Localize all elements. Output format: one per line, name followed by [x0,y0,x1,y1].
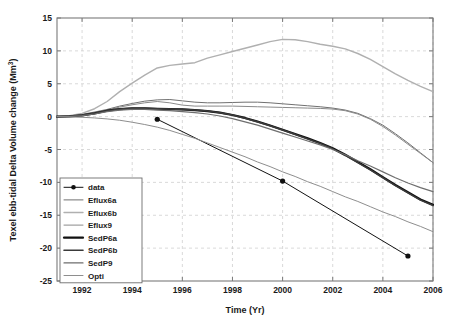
chart-legend[interactable]: dataEflux6aEflux6bEflux9SedP6aSedP6bSedP… [60,178,142,283]
y-tick-label: -20 [40,243,53,253]
y-tick-label: -15 [40,210,53,220]
legend-label-opti[interactable]: Opti [88,272,104,281]
x-tick-label: 1996 [173,285,192,295]
y-tick-label: 10 [43,46,53,56]
line-chart: 19921994199619982000200220042006-25-20-1… [0,0,449,321]
x-tick-label: 2002 [323,285,342,295]
y-tick-label: 15 [43,13,53,23]
legend-label-eflux6a[interactable]: Eflux6a [88,196,117,205]
legend-label-sedp9[interactable]: SedP9 [88,259,113,268]
data-point-marker [405,253,410,258]
data-point-marker [155,117,160,122]
x-tick-label: 1994 [123,285,142,295]
y-tick-label: -10 [40,177,53,187]
data-point-marker [280,178,285,183]
y-tick-label: -25 [40,276,53,286]
y-axis-title-main: Texel ebb-tidal Delta Volume change (Mm [8,65,18,241]
x-tick-label: 1992 [73,285,92,295]
y-tick-label: -5 [44,145,52,155]
x-tick-label: 1998 [223,285,242,295]
legend-marker [71,185,76,190]
y-tick-label: 5 [47,79,52,89]
legend-label-sedp6a[interactable]: SedP6a [88,234,117,243]
x-tick-label: 2006 [424,285,443,295]
x-axis-title: Time (Yr) [226,305,265,315]
legend-label-eflux6b[interactable]: Eflux6b [88,209,117,218]
chart-figure: 19921994199619982000200220042006-25-20-1… [0,0,449,321]
y-axis-title: Texel ebb-tidal Delta Volume change (Mm3… [7,59,18,242]
y-tick-label: 0 [47,112,52,122]
legend-label-data[interactable]: data [88,183,105,192]
y-axis-title-tail: ) [8,59,18,62]
x-tick-label: 2004 [373,285,392,295]
legend-label-eflux9[interactable]: Eflux9 [88,221,113,230]
legend-label-sedp6b[interactable]: SedP6b [88,246,117,255]
x-tick-label: 2000 [273,285,292,295]
